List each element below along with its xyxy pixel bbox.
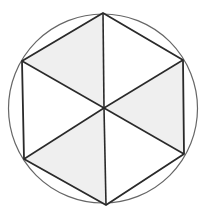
hexagon-diagram (0, 0, 210, 221)
spoke-line (103, 13, 104, 108)
